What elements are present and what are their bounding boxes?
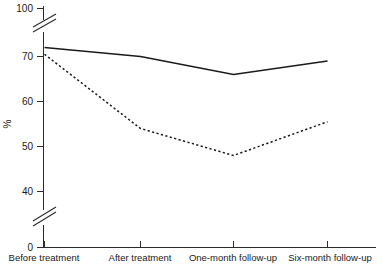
y-tick-label-50: 50 (22, 141, 34, 152)
x-label-before-treatment: Before treatment (9, 252, 80, 263)
x-category-labels: Before treatment After treatment One-mon… (9, 252, 372, 263)
x-tick-marks (45, 241, 328, 248)
axis-break-upper (33, 14, 56, 32)
y-tick-label-100: 100 (16, 3, 33, 14)
y-tick-label-60: 60 (22, 96, 34, 107)
x-label-after-treatment: After treatment (109, 252, 172, 263)
y-tick-label-70: 70 (22, 51, 34, 62)
y-axis-title: % (2, 119, 13, 128)
line-chart: 100 70 60 50 40 0 % Before treatment Aft… (0, 0, 382, 267)
y-tick-marks (37, 9, 44, 248)
x-label-one-month-follow-up: One-month follow-up (189, 252, 277, 263)
chart-canvas: 100 70 60 50 40 0 % Before treatment Aft… (0, 0, 382, 267)
y-tick-labels: 100 70 60 50 40 0 (16, 3, 33, 253)
series-line-dashed (45, 54, 328, 155)
axis-break-lower (33, 207, 56, 226)
x-label-six-month-follow-up: Six-month follow-up (288, 252, 371, 263)
series-line-solid (45, 48, 328, 75)
y-tick-label-40: 40 (22, 186, 34, 197)
